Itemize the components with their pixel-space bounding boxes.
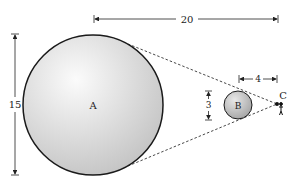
dimension-20-label: 20 [181,14,194,25]
dimension-20: 20 [94,14,278,25]
dimension-15: 15 [9,34,22,175]
diagram-canvas: A B C 20 4 3 [0,0,294,187]
point-c: C [275,90,287,115]
dimension-3: 3 [205,91,212,120]
dimension-4: 4 [239,74,277,84]
sphere-a-label: A [88,100,97,111]
dimension-4-label: 4 [255,74,261,84]
dimension-3-label: 3 [206,100,212,110]
dimension-15-label: 15 [9,99,22,110]
sphere-b: B [224,91,252,119]
point-c-label: C [279,90,287,101]
sphere-a: A [23,35,163,175]
sphere-b-label: B [235,101,242,111]
observer-person-icon [279,103,283,115]
